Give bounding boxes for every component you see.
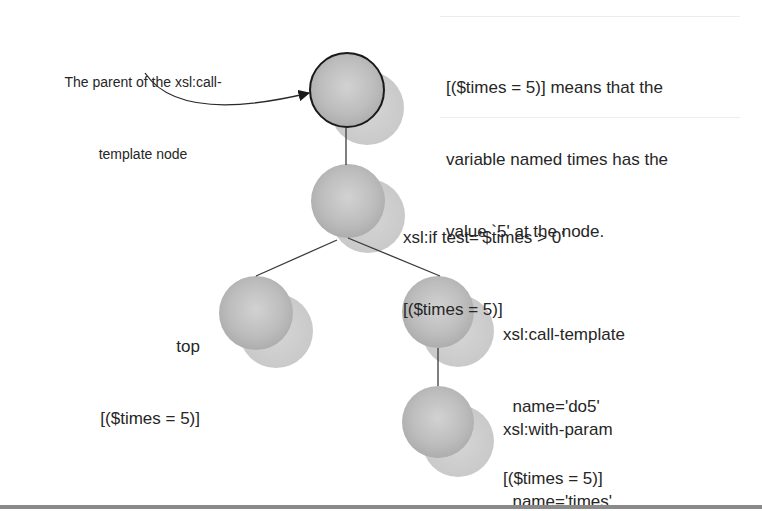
edge-if-to-top: [256, 240, 337, 276]
callout-text: The parent of the xsl:call- template nod…: [40, 22, 246, 190]
note-bottom-rule: [440, 117, 740, 118]
label-line: xsl:with-param: [503, 418, 648, 442]
note-top-rule: [440, 16, 740, 17]
label-with-param: xsl:with-param name='times' select='$tim…: [503, 370, 648, 511]
callout-line: template node: [40, 142, 246, 166]
label-line: [($times = 5)]: [80, 407, 200, 431]
label-line: xsl:call-template: [503, 323, 625, 347]
label-line: top: [80, 335, 200, 359]
bottom-rule: [0, 505, 762, 509]
node-top: [219, 276, 293, 350]
callout-line: The parent of the xsl:call-: [40, 70, 246, 94]
node-xsl-if: [311, 164, 385, 238]
note-line: [($times = 5)] means that the: [446, 76, 668, 100]
note-line: variable named times has the: [446, 148, 668, 172]
label-line: xsl:if test='$times > 0': [403, 226, 564, 250]
label-top: top [($times = 5)]: [80, 287, 200, 455]
node-with-param: [402, 386, 474, 458]
node-root: [310, 53, 384, 127]
